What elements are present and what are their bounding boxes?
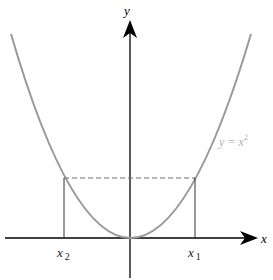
x-axis-label: x: [260, 231, 267, 246]
x2-label: x2: [56, 245, 70, 262]
y-axis-label: y: [122, 3, 130, 18]
parabola-curve: [11, 34, 251, 238]
curve-equation-label: y = x2: [218, 133, 248, 149]
parabola-diagram: y x x2 x1 y = x2: [0, 0, 273, 280]
x1-label: x1: [187, 245, 201, 262]
